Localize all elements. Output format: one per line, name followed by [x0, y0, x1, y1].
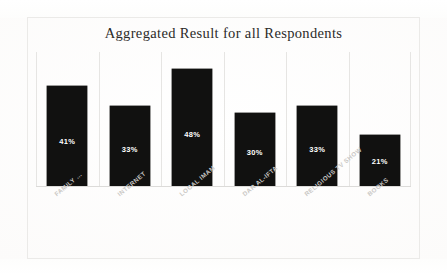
bar-group[interactable]: 41%	[47, 52, 87, 186]
page-bottom-edge	[0, 259, 447, 275]
category-grid-line	[99, 52, 100, 186]
bar-group[interactable]: 33%	[110, 52, 150, 186]
category-grid-line	[161, 52, 162, 186]
bar-value-label: 33%	[110, 145, 150, 154]
bar-value-label: 21%	[360, 157, 400, 166]
bar[interactable]: 41%	[47, 86, 87, 186]
page-top-edge	[0, 0, 447, 18]
bar-group[interactable]: 21%	[360, 52, 400, 186]
chart-title: Aggregated Result for all Respondents	[27, 25, 420, 42]
plot-left-rule	[36, 52, 37, 186]
bar-value-label: 30%	[235, 148, 275, 157]
plot-right-rule	[410, 52, 411, 186]
bar-value-label: 41%	[47, 137, 87, 146]
category-grid-line	[349, 52, 350, 186]
bar-value-label: 48%	[172, 130, 212, 139]
bar-value-label: 33%	[297, 145, 337, 154]
bar-group[interactable]: 33%	[297, 52, 337, 186]
axis-baseline	[36, 186, 411, 187]
category-grid-line	[224, 52, 225, 186]
plot-area: 41%33%48%30%33%21%	[36, 52, 411, 186]
bar-group[interactable]: 30%	[235, 52, 275, 186]
category-grid-line	[286, 52, 287, 186]
bar-group[interactable]: 48%	[172, 52, 212, 186]
scanned-page: Aggregated Result for all Respondents 41…	[0, 0, 447, 275]
bar[interactable]: 21%	[360, 135, 400, 186]
